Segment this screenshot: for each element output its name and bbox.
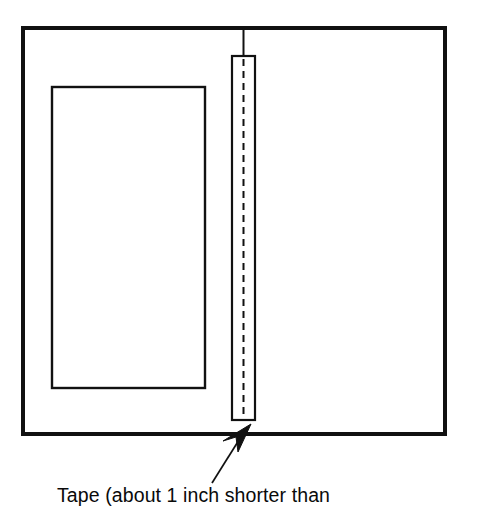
tape-diagram-illustration [0, 0, 478, 512]
figure-canvas: Tape (about 1 inch shorter than [0, 0, 478, 512]
left-page-inner-rectangle [52, 87, 205, 388]
